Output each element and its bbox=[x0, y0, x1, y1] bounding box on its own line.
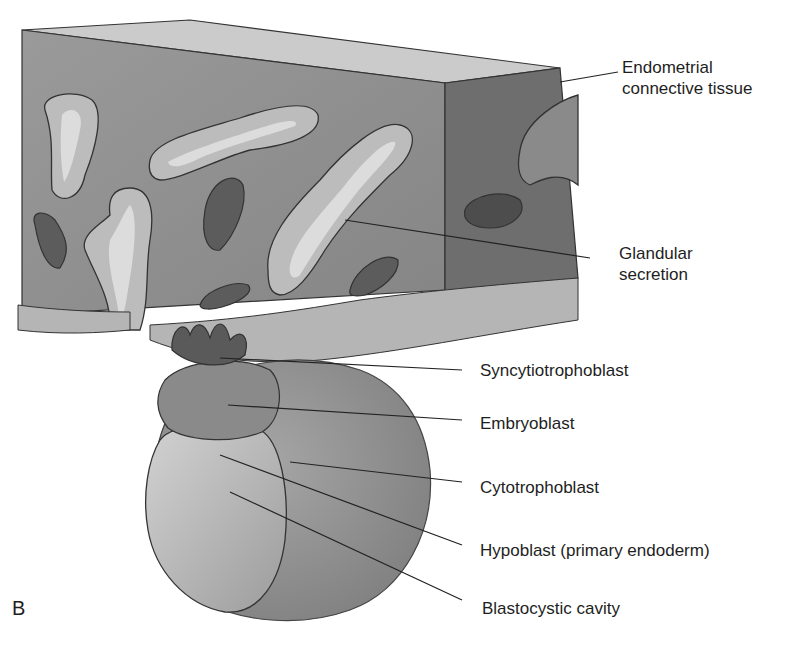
label-line: Blastocystic cavity bbox=[482, 598, 620, 619]
label-cytotrophoblast: Cytotrophoblast bbox=[480, 477, 599, 498]
label-line: connective tissue bbox=[622, 78, 752, 99]
label-hypoblast: Hypoblast (primary endoderm) bbox=[480, 540, 710, 561]
panel-letter: B bbox=[12, 597, 25, 620]
label-line: Endometrial bbox=[622, 57, 752, 78]
label-line: Syncytiotrophoblast bbox=[480, 360, 628, 381]
label-endometrial-connective-tissue: Endometrial connective tissue bbox=[622, 57, 752, 99]
embryoblast-mass bbox=[158, 361, 280, 439]
label-syncytiotrophoblast: Syncytiotrophoblast bbox=[480, 360, 628, 381]
label-line: secretion bbox=[619, 264, 693, 285]
label-blastocystic-cavity: Blastocystic cavity bbox=[482, 598, 620, 619]
label-line: Hypoblast (primary endoderm) bbox=[480, 540, 710, 561]
blastocystic-cavity bbox=[146, 426, 287, 613]
label-line: Cytotrophoblast bbox=[480, 477, 599, 498]
label-glandular-secretion: Glandular secretion bbox=[619, 243, 693, 285]
label-embryoblast: Embryoblast bbox=[480, 413, 574, 434]
block-side-face bbox=[445, 68, 578, 295]
blastocyst bbox=[146, 324, 431, 621]
label-line: Embryoblast bbox=[480, 413, 574, 434]
label-line: Glandular bbox=[619, 243, 693, 264]
